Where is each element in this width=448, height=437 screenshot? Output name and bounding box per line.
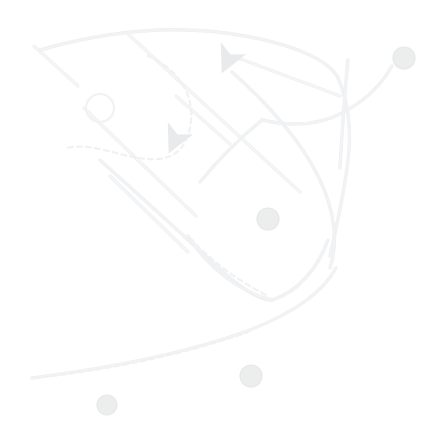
marker-circle[interactable] (240, 365, 262, 387)
marker-dot[interactable] (257, 208, 279, 230)
marker-circle[interactable] (393, 47, 415, 69)
marker-circle[interactable] (257, 208, 279, 230)
marker-dot[interactable] (240, 365, 262, 387)
map-container[interactable]: Street Map View (0, 0, 448, 437)
marker-pin[interactable] (393, 47, 415, 70)
marker-dot[interactable] (97, 395, 117, 415)
map-canvas[interactable] (0, 0, 448, 437)
marker-circle[interactable] (97, 395, 117, 415)
